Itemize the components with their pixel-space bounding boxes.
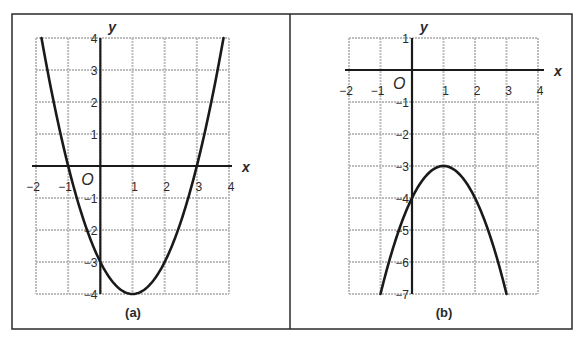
y-tick-label: −2	[395, 128, 409, 142]
y-tick-label: −3	[84, 256, 98, 270]
y-tick-label: −4	[395, 192, 409, 206]
x-tick-label: 3	[195, 180, 202, 194]
panel-b: xyO−2−112341−1−2−3−4−5−6−7	[339, 19, 563, 302]
y-tick-label: 2	[91, 96, 98, 110]
panel-a-label: (a)	[125, 305, 141, 320]
y-tick-label: −4	[84, 288, 98, 302]
figure-svg: xyO−2−112344321−1−2−3−4 xyO−2−112341−1−2…	[0, 0, 582, 338]
y-axis-label: y	[107, 19, 117, 35]
x-tick-label: 4	[537, 84, 544, 98]
y-axis-label: y	[419, 19, 429, 35]
y-tick-label: −6	[395, 256, 409, 270]
y-tick-label: 3	[91, 64, 98, 78]
x-axis-label: x	[241, 159, 251, 175]
y-tick-label: 1	[91, 128, 98, 142]
y-tick-label: −7	[395, 288, 409, 302]
x-tick-label: 2	[474, 84, 481, 98]
panel-a: xyO−2−112344321−1−2−3−4	[26, 19, 251, 302]
origin-label: O	[393, 75, 405, 92]
outer-border	[12, 14, 572, 329]
y-tick-label: −1	[395, 96, 409, 110]
x-tick-label: 1	[442, 84, 449, 98]
x-tick-label: −1	[58, 180, 72, 194]
x-tick-label: 1	[131, 180, 138, 194]
outer-frame	[12, 14, 572, 329]
x-tick-label: 3	[505, 84, 512, 98]
x-tick-label: 4	[228, 180, 235, 194]
y-tick-label: −3	[395, 160, 409, 174]
x-tick-label: 2	[163, 180, 170, 194]
x-tick-label: −2	[339, 84, 353, 98]
panel-b-label: (b)	[436, 305, 453, 320]
x-tick-label: −1	[371, 84, 385, 98]
y-tick-label: 4	[91, 32, 98, 46]
x-axis-label: x	[553, 63, 563, 79]
y-tick-label: −1	[84, 192, 98, 206]
origin-label: O	[81, 171, 93, 188]
x-tick-label: −2	[26, 180, 40, 194]
figure: xyO−2−112344321−1−2−3−4 xyO−2−112341−1−2…	[0, 0, 582, 338]
y-tick-label: 1	[402, 32, 409, 46]
